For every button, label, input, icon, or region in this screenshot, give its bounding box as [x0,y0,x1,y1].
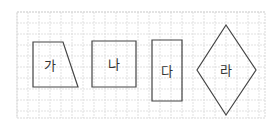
shape-label: 가 [44,58,56,73]
shapes-group: 가나다라 [33,25,256,115]
shape-ra: 라 [197,25,256,115]
shape-da: 다 [152,40,182,101]
shape-ga: 가 [33,42,78,87]
shape-label: 다 [161,64,173,79]
shapes-diagram: 가나다라 [0,0,279,122]
shape-label: 라 [220,63,232,78]
shape-na: 나 [92,41,136,87]
shape-label: 나 [108,57,120,72]
